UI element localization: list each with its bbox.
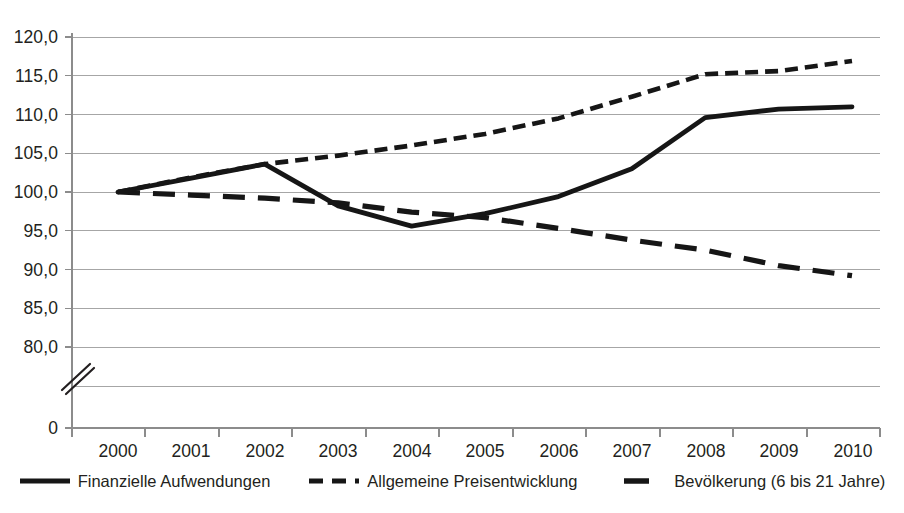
chart-legend: Finanzielle Aufwendungen Allgemeine Prei…: [0, 466, 904, 496]
fine-dash-line-key: [308, 472, 360, 490]
y-tick-label-100: 100,0: [0, 182, 58, 203]
y-tick-marks: [65, 37, 72, 428]
y-tick-label-85: 85,0: [0, 298, 58, 319]
axis-break-icon: [62, 364, 94, 394]
y-tick-label-0: 0: [0, 418, 58, 439]
legend-label-allgemeine-preisentwicklung: Allgemeine Preisentwicklung: [367, 472, 577, 490]
gridlines: [72, 37, 880, 386]
x-tick-label-2010: 2010: [813, 441, 893, 462]
legend-item-bevoelkerung[interactable]: Bevölkerung (6 bis 21 Jahre): [615, 472, 885, 490]
x-tick-label-2006: 2006: [519, 441, 599, 462]
series-line-finanzielle-aufwendungen: [118, 107, 852, 226]
solid-line-key: [19, 472, 71, 490]
x-tick-label-2005: 2005: [445, 441, 525, 462]
legend-label-bevoelkerung: Bevölkerung (6 bis 21 Jahre): [674, 472, 885, 490]
x-tick-label-2001: 2001: [151, 441, 231, 462]
line-chart-canvas: [0, 0, 904, 513]
x-tick-label-2004: 2004: [372, 441, 452, 462]
coarse-dash-line-key: [615, 472, 667, 490]
x-tick-marks: [72, 428, 880, 437]
x-tick-label-2007: 2007: [592, 441, 672, 462]
y-tick-label-120: 120,0: [0, 27, 58, 48]
legend-label-finanzielle-aufwendungen: Finanzielle Aufwendungen: [78, 472, 271, 490]
x-tick-label-2002: 2002: [225, 441, 305, 462]
chart-container: 120,0 115,0 110,0 105,0 100,0 95,0 90,0 …: [0, 0, 904, 513]
y-tick-label-90: 90,0: [0, 260, 58, 281]
y-tick-label-80: 80,0: [0, 337, 58, 358]
y-tick-label-105: 105,0: [0, 143, 58, 164]
legend-item-finanzielle-aufwendungen[interactable]: Finanzielle Aufwendungen: [19, 472, 271, 490]
y-tick-label-110: 110,0: [0, 105, 58, 126]
y-tick-label-115: 115,0: [0, 66, 58, 87]
series-line-bevoelkerung: [118, 192, 852, 276]
x-tick-label-2008: 2008: [666, 441, 746, 462]
x-tick-label-2009: 2009: [739, 441, 819, 462]
legend-item-allgemeine-preisentwicklung[interactable]: Allgemeine Preisentwicklung: [308, 472, 577, 490]
x-tick-label-2003: 2003: [298, 441, 378, 462]
y-tick-label-95: 95,0: [0, 221, 58, 242]
x-tick-label-2000: 2000: [78, 441, 158, 462]
